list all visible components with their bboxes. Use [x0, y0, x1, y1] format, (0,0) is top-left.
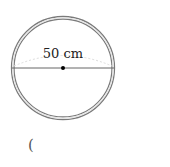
circle-diagram: 50 cm (	[0, 0, 170, 167]
diameter-label: 50 cm	[43, 46, 83, 61]
center-point	[61, 66, 65, 70]
answer-paren: (	[28, 136, 34, 154]
